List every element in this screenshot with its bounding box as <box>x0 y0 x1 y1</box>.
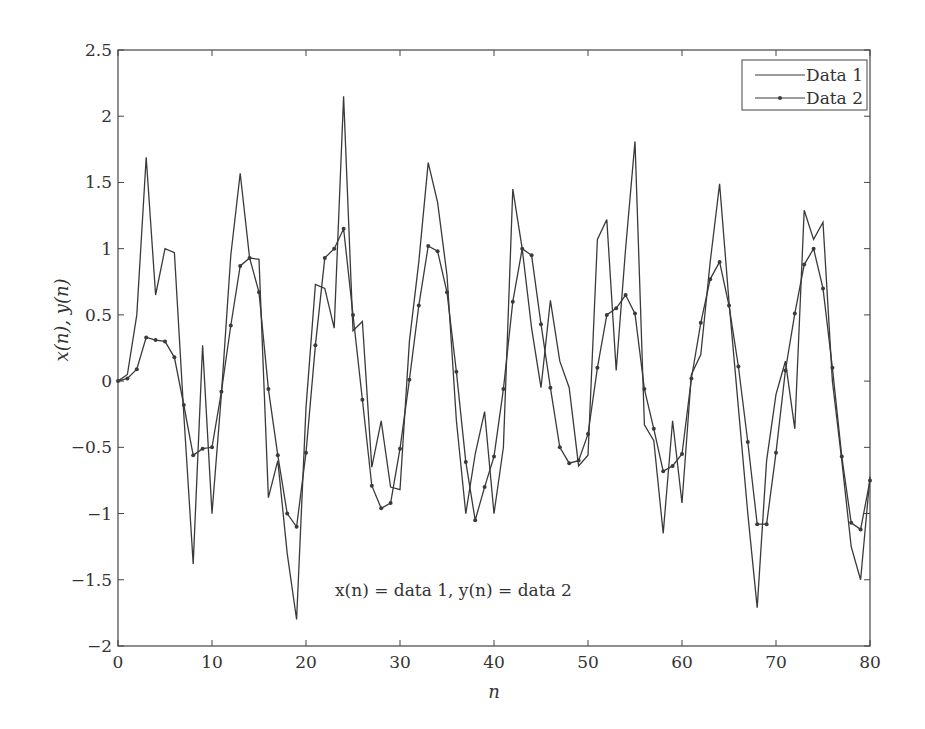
data-point-marker <box>793 312 797 316</box>
y-tick-label: 2.5 <box>85 40 112 60</box>
legend: Data 1 Data 2 <box>742 60 867 110</box>
data-point-marker <box>868 478 872 482</box>
data-point-marker <box>774 451 778 455</box>
data-point-marker <box>229 323 233 327</box>
data-point-marker <box>191 453 195 457</box>
x-tick-label: 60 <box>671 652 693 672</box>
y-tick-label: −1.5 <box>71 570 112 590</box>
data-point-marker <box>389 501 393 505</box>
data-point-marker <box>577 459 581 463</box>
data-point-marker <box>210 445 214 449</box>
series-line-data-1 <box>118 96 870 619</box>
x-tick-label: 0 <box>113 652 124 672</box>
data-point-marker <box>586 432 590 436</box>
data-point-marker <box>285 512 289 516</box>
data-point-marker <box>370 484 374 488</box>
y-tick-label: 2 <box>101 106 112 126</box>
data-point-marker <box>436 249 440 253</box>
data-point-marker <box>492 455 496 459</box>
data-point-marker <box>351 313 355 317</box>
x-tick-label: 80 <box>859 652 881 672</box>
data-point-marker <box>172 355 176 359</box>
data-point-marker <box>407 378 411 382</box>
x-axis-label: n <box>488 681 500 702</box>
data-point-marker <box>276 453 280 457</box>
data-point-marker <box>849 521 853 525</box>
data-point-marker <box>125 376 129 380</box>
data-point-marker <box>144 335 148 339</box>
data-point-marker <box>464 460 468 464</box>
data-point-marker <box>511 300 515 304</box>
data-point-marker <box>248 256 252 260</box>
y-tick-label: −0.5 <box>71 437 112 457</box>
data-point-marker <box>642 387 646 391</box>
y-tick-label: −1 <box>87 504 112 524</box>
x-axis: 01020304050607080 <box>113 50 881 672</box>
y-axis: −2−1.5−1−0.500.511.522.5 <box>71 40 870 656</box>
data-point-marker <box>163 339 167 343</box>
data-point-marker <box>736 365 740 369</box>
data-point-marker <box>201 447 205 451</box>
data-point-marker <box>652 427 656 431</box>
data-point-marker <box>473 518 477 522</box>
data-point-marker <box>426 244 430 248</box>
plot-frame <box>118 50 870 646</box>
y-tick-label: −2 <box>87 636 112 656</box>
x-tick-label: 70 <box>765 652 787 672</box>
data-point-marker <box>304 451 308 455</box>
data-point-marker <box>830 366 834 370</box>
data-point-marker <box>802 263 806 267</box>
data-point-marker <box>379 506 383 510</box>
data-point-marker <box>295 525 299 529</box>
series-layer <box>116 96 872 619</box>
data-point-marker <box>257 290 261 294</box>
data-point-marker <box>840 455 844 459</box>
data-point-marker <box>765 522 769 526</box>
data-point-marker <box>624 293 628 297</box>
y-tick-label: 0 <box>101 371 112 391</box>
data-point-marker <box>595 366 599 370</box>
data-point-marker <box>238 264 242 268</box>
data-point-marker <box>182 403 186 407</box>
data-point-marker <box>398 447 402 451</box>
data-point-marker <box>680 452 684 456</box>
y-tick-label: 1 <box>101 239 112 259</box>
data-point-marker <box>135 367 139 371</box>
legend-label-data2: Data 2 <box>806 88 863 108</box>
data-point-marker <box>812 247 816 251</box>
data-point-marker <box>520 247 524 251</box>
data-point-marker <box>727 304 731 308</box>
data-point-marker <box>548 386 552 390</box>
data-point-marker <box>483 485 487 489</box>
data-point-marker <box>708 277 712 281</box>
data-point-marker <box>445 290 449 294</box>
data-point-marker <box>360 398 364 402</box>
plot-border <box>118 50 870 646</box>
annotation: x(n) = data 1, y(n) = data 2 <box>335 580 572 600</box>
legend-marker-data2 <box>778 96 782 100</box>
data-point-marker <box>821 286 825 290</box>
data-point-marker <box>783 369 787 373</box>
data-point-marker <box>614 306 618 310</box>
data-point-marker <box>454 370 458 374</box>
x-tick-label: 50 <box>577 652 599 672</box>
data-point-marker <box>417 304 421 308</box>
data-point-marker <box>689 376 693 380</box>
data-point-marker <box>633 312 637 316</box>
data-point-marker <box>266 387 270 391</box>
data-point-marker <box>746 440 750 444</box>
x-tick-label: 10 <box>201 652 223 672</box>
data-point-marker <box>699 321 703 325</box>
data-point-marker <box>116 379 120 383</box>
y-tick-label: 1.5 <box>85 172 112 192</box>
data-point-marker <box>558 445 562 449</box>
data-point-marker <box>671 464 675 468</box>
data-point-marker <box>539 322 543 326</box>
data-point-marker <box>530 253 534 257</box>
data-point-marker <box>154 338 158 342</box>
data-point-marker <box>332 247 336 251</box>
data-point-marker <box>323 256 327 260</box>
data-point-marker <box>718 260 722 264</box>
data-point-marker <box>313 343 317 347</box>
data-point-marker <box>219 390 223 394</box>
